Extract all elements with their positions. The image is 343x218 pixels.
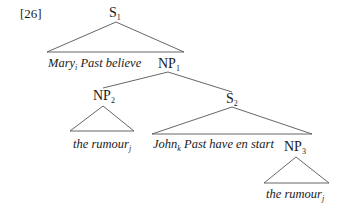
node-np3: NP3	[284, 140, 306, 156]
np2-triangle	[70, 106, 134, 131]
node-np2: NP2	[93, 89, 115, 105]
s1-triangle	[47, 22, 184, 52]
node-subscript: 2	[111, 96, 115, 105]
node-label: NP	[284, 139, 302, 154]
node-subscript: 2	[234, 99, 238, 108]
node-label: NP	[93, 88, 111, 103]
node-s2: S2	[226, 92, 238, 108]
leaf-text-rest: Past have en start	[181, 137, 274, 151]
example-number: [26]	[20, 7, 42, 20]
node-subscript: 1	[117, 13, 121, 22]
leaf-text: the rumour	[73, 137, 129, 151]
s2-triangle	[152, 107, 312, 134]
node-np1: NP1	[158, 57, 180, 73]
node-subscript: 3	[302, 147, 306, 156]
leaf-s1-text: Maryi Past believe	[48, 57, 141, 72]
node-label: NP	[158, 56, 176, 71]
leaf-np2-text: the rumourj	[73, 138, 131, 153]
leaf-subscript: j	[129, 144, 131, 153]
syntax-tree-lines	[0, 0, 343, 218]
np1-branches	[103, 72, 232, 92]
leaf-s2-text: Johnk Past have en start	[153, 138, 274, 153]
leaf-text: the rumour	[266, 187, 322, 201]
node-label: S	[226, 91, 234, 106]
leaf-text: Mary	[48, 56, 75, 70]
leaf-text-rest: Past believe	[77, 56, 141, 70]
node-subscript: 1	[176, 64, 180, 73]
leaf-subscript: j	[322, 194, 324, 203]
leaf-np3-text: the rumourj	[266, 188, 324, 203]
node-s1: S1	[109, 6, 121, 22]
node-label: S	[109, 5, 117, 20]
leaf-text: John	[153, 137, 177, 151]
np3-triangle	[264, 157, 329, 183]
